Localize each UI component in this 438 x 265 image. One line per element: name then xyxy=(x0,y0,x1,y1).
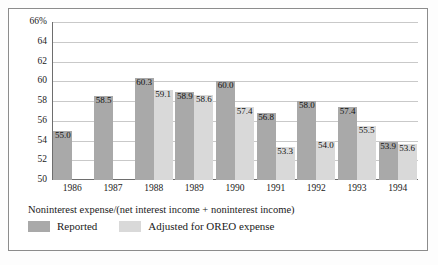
bar-slot-adjusted: 59.1 xyxy=(154,22,173,180)
chart-legend: Reported Adjusted for OREO expense xyxy=(28,220,275,233)
bar-slot-reported: 58.9 xyxy=(175,22,194,180)
bar-adjusted[interactable] xyxy=(194,95,213,180)
y-axis-tick-label: 56 xyxy=(38,116,48,126)
legend-label-reported: Reported xyxy=(57,220,97,233)
x-axis-tick-label: 1987 xyxy=(93,182,134,196)
x-axis-tick-label: 1986 xyxy=(52,182,93,196)
bar-group: 55.0 xyxy=(52,22,93,180)
bar-group: 57.455.5 xyxy=(337,22,378,180)
x-axis-labels: 198619871988198919901991199219931994 xyxy=(52,182,418,196)
bar-slot-reported: 58.0 xyxy=(297,22,316,180)
bar-slot-adjusted: 54.0 xyxy=(316,22,335,180)
y-axis-tick-label: 64 xyxy=(38,37,48,47)
chart-caption: Noninterest expense/(net interest income… xyxy=(28,203,295,216)
bar-reported[interactable] xyxy=(216,81,235,180)
y-axis-tick-label: 52 xyxy=(38,156,48,166)
chart-figure: 505254565860626466% 55.058.560.359.158.9… xyxy=(0,0,438,265)
bar-slot-reported: 58.5 xyxy=(94,22,113,180)
bar-value-label: 58.9 xyxy=(177,92,193,101)
plot-area: 505254565860626466% 55.058.560.359.158.9… xyxy=(52,22,418,180)
bar-slot-adjusted xyxy=(113,22,132,180)
bar-slot-reported: 53.9 xyxy=(379,22,398,180)
bar-slot-reported: 57.4 xyxy=(338,22,357,180)
bar-value-label: 57.4 xyxy=(237,107,253,116)
bar-reported[interactable] xyxy=(257,113,276,180)
x-axis-tick-label: 1992 xyxy=(296,182,337,196)
bar-slot-reported: 55.0 xyxy=(53,22,72,180)
bar-slot-reported: 60.3 xyxy=(135,22,154,180)
legend-swatch-reported xyxy=(28,221,50,232)
y-axis-tick-label: 50 xyxy=(38,175,48,185)
bar-value-label: 58.0 xyxy=(299,101,315,110)
bar-adjusted[interactable] xyxy=(235,107,254,180)
bar-value-label: 58.6 xyxy=(196,95,212,104)
x-axis-tick-label: 1994 xyxy=(377,182,418,196)
bar-value-label: 53.3 xyxy=(277,147,293,156)
bar-value-label: 58.5 xyxy=(96,96,112,105)
bar-adjusted[interactable] xyxy=(154,90,173,180)
bar-group: 60.359.1 xyxy=(133,22,174,180)
x-axis-tick-label: 1988 xyxy=(133,182,174,196)
bar-value-label: 55.0 xyxy=(55,131,71,140)
y-axis-tick-label: 62 xyxy=(38,57,48,67)
x-axis-tick-label: 1991 xyxy=(255,182,296,196)
bar-value-label: 53.6 xyxy=(399,144,415,153)
bar-group: 58.958.6 xyxy=(174,22,215,180)
x-axis-tick-label: 1989 xyxy=(174,182,215,196)
bar-value-label: 59.1 xyxy=(155,90,171,99)
bar-group: 53.953.6 xyxy=(377,22,418,180)
bar-groups: 55.058.560.359.158.958.660.057.456.853.3… xyxy=(52,22,418,180)
bar-value-label: 56.8 xyxy=(258,113,274,122)
bar-slot-adjusted: 57.4 xyxy=(235,22,254,180)
x-axis-tick-label: 1990 xyxy=(215,182,256,196)
bar-slot-reported: 60.0 xyxy=(216,22,235,180)
y-axis-tick-label: 66% xyxy=(30,17,47,27)
bar-value-label: 57.4 xyxy=(340,107,356,116)
bar-slot-adjusted: 53.3 xyxy=(276,22,295,180)
bar-value-label: 53.9 xyxy=(380,142,396,151)
bar-group: 58.054.0 xyxy=(296,22,337,180)
bar-reported[interactable] xyxy=(338,107,357,180)
bar-value-label: 60.0 xyxy=(218,81,234,90)
bar-slot-adjusted: 58.6 xyxy=(194,22,213,180)
y-axis-tick-label: 58 xyxy=(38,96,48,106)
bar-reported[interactable] xyxy=(175,92,194,180)
bar-slot-adjusted: 53.6 xyxy=(398,22,417,180)
y-axis-tick-label: 54 xyxy=(38,136,48,146)
bar-group: 60.057.4 xyxy=(215,22,256,180)
bar-value-label: 54.0 xyxy=(318,141,334,150)
legend-swatch-adjusted xyxy=(119,221,141,232)
bar-reported[interactable] xyxy=(135,78,154,180)
bar-slot-adjusted: 55.5 xyxy=(357,22,376,180)
bar-slot-reported: 56.8 xyxy=(257,22,276,180)
y-axis-tick-label: 60 xyxy=(38,77,48,87)
bar-slot-adjusted xyxy=(72,22,91,180)
bar-value-label: 55.5 xyxy=(359,126,375,135)
bar-group: 58.5 xyxy=(93,22,134,180)
bar-reported[interactable] xyxy=(297,101,316,180)
bar-value-label: 60.3 xyxy=(136,78,152,87)
legend-label-adjusted: Adjusted for OREO expense xyxy=(148,220,274,233)
bar-group: 56.853.3 xyxy=(255,22,296,180)
bar-reported[interactable] xyxy=(94,96,113,180)
x-axis-tick-label: 1993 xyxy=(337,182,378,196)
